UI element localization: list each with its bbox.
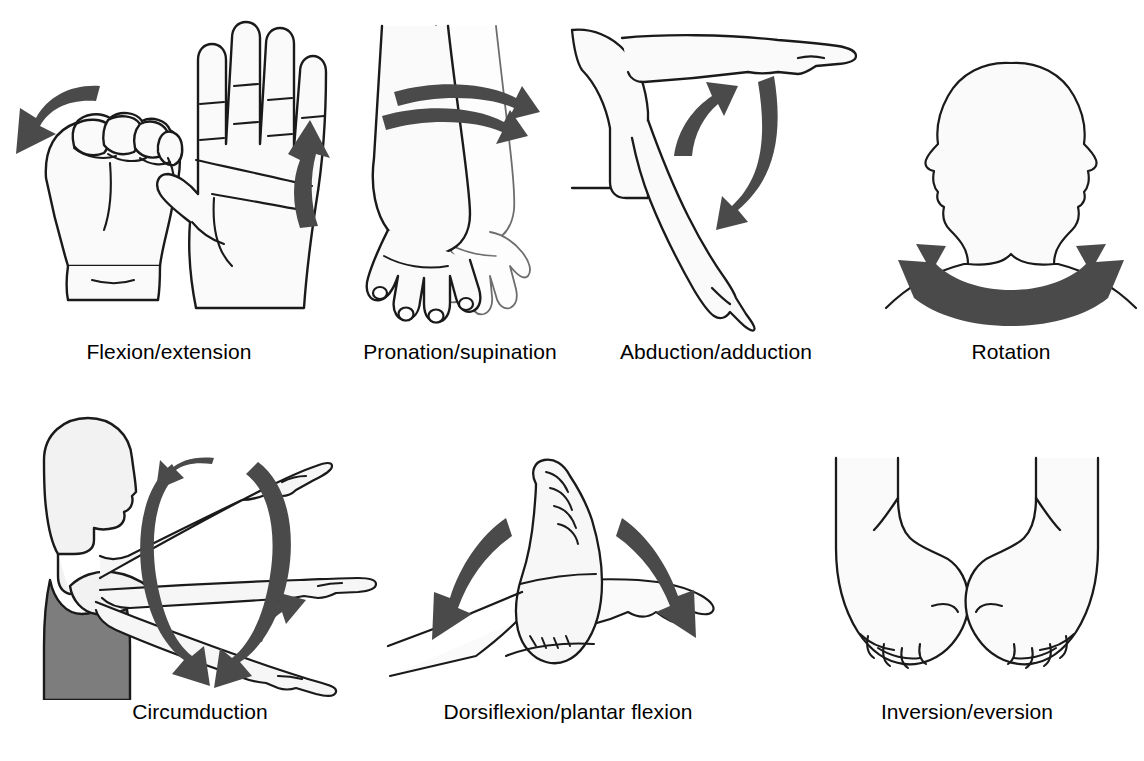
- nail-4: [459, 298, 473, 310]
- abduction-adduction-illustration: [566, 8, 866, 338]
- lowered-arm-outline: [632, 120, 755, 331]
- panel-flexion-extension: Flexion/extension: [0, 8, 338, 368]
- neck-outline: [58, 554, 70, 594]
- dorsiflexed-foot: [516, 460, 602, 664]
- raised-arm-outline: [622, 35, 856, 82]
- panel-rotation: Rotation: [880, 8, 1142, 368]
- panel-abduction-adduction: Abduction/adduction: [566, 8, 866, 368]
- rotation-illustration: [880, 8, 1142, 338]
- plantar-heel-line: [390, 622, 516, 676]
- circumduction-illustration: [0, 400, 400, 700]
- pronation-supination-illustration: [340, 8, 580, 338]
- panel-dorsiflexion-plantar-flexion: Dorsiflexion/plantar flexion: [380, 432, 756, 745]
- raised-hand-detail: [798, 57, 824, 59]
- panel-circumduction: Circumduction: [0, 400, 400, 745]
- panel-label-dorsiflexion-plantar-flexion: Dorsiflexion/plantar flexion: [380, 700, 756, 724]
- panel-label-flexion-extension: Flexion/extension: [0, 340, 338, 364]
- panel-label-pronation-supination: Pronation/supination: [340, 340, 580, 364]
- panel-pronation-supination: Pronation/supination: [340, 8, 580, 368]
- dorsiflexion-plantar-flexion-illustration: [380, 432, 756, 700]
- right-foot-outline: [966, 458, 1098, 664]
- panel-label-inversion-eversion: Inversion/eversion: [790, 700, 1144, 724]
- flexion-extension-illustration: [0, 8, 338, 338]
- nail-3: [429, 310, 444, 323]
- panel-label-circumduction: Circumduction: [0, 700, 400, 724]
- panel-label-abduction-adduction: Abduction/adduction: [566, 340, 866, 364]
- dorsiflexion-arrow: [432, 518, 512, 640]
- rotation-arrow: [898, 244, 1124, 326]
- head-outline: [925, 63, 1096, 265]
- panel-inversion-eversion: Inversion/eversion: [790, 452, 1144, 745]
- nail-1: [373, 287, 387, 299]
- left-foot-outline: [836, 458, 968, 664]
- nail-2: [399, 308, 414, 321]
- panel-label-rotation: Rotation: [880, 340, 1142, 364]
- plantar-flexion-arrow: [616, 518, 696, 638]
- head-outline: [44, 418, 136, 554]
- inversion-eversion-illustration: [790, 452, 1144, 700]
- abduction-arrow: [674, 82, 738, 156]
- joint-movement-figure: Flexion/extension: [0, 0, 1144, 761]
